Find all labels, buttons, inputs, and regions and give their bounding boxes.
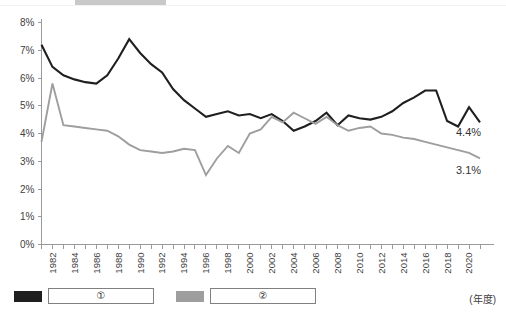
legend-entry-2[interactable]: ② [176,288,316,304]
legend-swatch-series-2 [176,291,204,302]
x-axis-tick-label: 1992 [156,253,167,274]
x-axis-tick-label: 2020 [463,253,474,274]
x-axis-title: (年度) [469,291,496,306]
line-chart: 0%1%2%3%4%5%6%7%8%1982198419861988199019… [0,0,506,282]
chart-root: 0%1%2%3%4%5%6%7%8%1982198419861988199019… [0,0,506,315]
y-axis-tick-label: 2% [20,184,35,195]
legend-label-series-1: ① [48,288,154,304]
y-axis-tick-label: 8% [20,17,35,28]
x-axis-tick-label: 1998 [222,253,233,274]
y-axis-tick-label: 0% [20,239,35,250]
x-axis-tick-label: 1982 [47,253,58,274]
x-axis-tick-label: 1988 [113,253,124,274]
data-point-label: 3.1% [456,164,481,176]
x-axis-tick-label: 2008 [332,253,343,274]
x-axis-tick-label: 1996 [200,253,211,274]
series-line-1 [42,39,481,131]
x-axis-tick-label: 1990 [135,253,146,274]
x-axis-tick-label: 1986 [91,253,102,274]
y-axis-tick-label: 6% [20,73,35,84]
y-axis-tick-label: 4% [20,128,35,139]
x-axis-tick-label: 2012 [376,253,387,274]
y-axis-tick-label: 1% [20,211,35,222]
x-axis-tick-label: 2000 [244,253,255,274]
legend-entry-1[interactable]: ① [14,288,154,304]
x-axis-tick-label: 1994 [178,253,189,274]
legend-swatch-series-1 [14,291,42,302]
x-axis-tick-label: 2018 [442,253,453,274]
chart-svg: 0%1%2%3%4%5%6%7%8%1982198419861988199019… [0,0,506,282]
chart-legend: ① ② [14,287,316,305]
y-axis-tick-label: 7% [20,45,35,56]
y-axis-tick-label: 3% [20,156,35,167]
data-point-label: 4.4% [456,126,481,138]
x-axis-tick-label: 2016 [420,253,431,274]
x-axis-tick-label: 2004 [288,253,299,274]
y-axis-tick-label: 5% [20,100,35,111]
x-axis-tick-label: 2014 [398,253,409,274]
x-axis-tick-label: 2006 [310,253,321,274]
legend-label-series-2: ② [210,288,316,304]
x-axis-tick-label: 1984 [69,253,80,274]
x-axis-tick-label: 2002 [266,253,277,274]
x-axis-tick-label: 2010 [354,253,365,274]
